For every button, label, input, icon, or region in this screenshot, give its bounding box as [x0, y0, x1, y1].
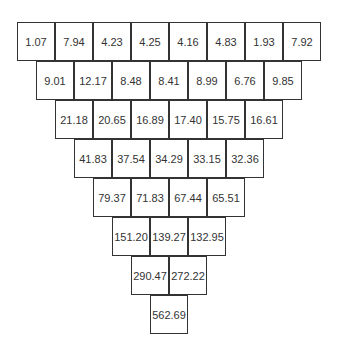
pyramid-cell: 1.93 [245, 22, 283, 61]
pyramid-cell: 71.83 [131, 178, 169, 217]
pyramid-cell: 34.29 [150, 139, 188, 178]
pyramid-cell: 1.07 [17, 22, 55, 61]
pyramid-cell: 4.23 [93, 22, 131, 61]
pyramid-cell: 16.61 [245, 100, 283, 139]
pyramid-cell: 15.75 [207, 100, 245, 139]
pyramid-cell: 32.36 [226, 139, 264, 178]
pyramid-cell: 290.47 [131, 256, 169, 295]
pyramid-cell: 79.37 [93, 178, 131, 217]
pyramid-cell: 151.20 [112, 217, 150, 256]
pyramid-cell: 4.16 [169, 22, 207, 61]
pyramid-cell: 9.01 [36, 61, 74, 100]
pyramid-cell: 7.94 [55, 22, 93, 61]
pyramid-cell: 21.18 [55, 100, 93, 139]
pyramid-cell: 8.48 [112, 61, 150, 100]
pyramid-cell: 139.27 [150, 217, 188, 256]
pyramid-cell: 272.22 [169, 256, 207, 295]
pyramid-cell: 12.17 [74, 61, 112, 100]
pyramid-cell: 20.65 [93, 100, 131, 139]
pyramid-cell: 4.25 [131, 22, 169, 61]
pyramid-cell: 41.83 [74, 139, 112, 178]
pyramid-cell: 9.85 [264, 61, 302, 100]
pyramid-cell: 4.83 [207, 22, 245, 61]
pyramid-cell: 37.54 [112, 139, 150, 178]
pyramid-cell: 6.76 [226, 61, 264, 100]
pyramid-cell: 67.44 [169, 178, 207, 217]
pyramid-cell: 33.15 [188, 139, 226, 178]
pyramid-cell: 7.92 [283, 22, 321, 61]
pyramid-cell: 132.95 [188, 217, 226, 256]
pyramid-cell: 65.51 [207, 178, 245, 217]
pyramid-cell: 8.99 [188, 61, 226, 100]
pyramid-cell: 562.69 [150, 295, 188, 334]
pyramid-cell: 8.41 [150, 61, 188, 100]
pyramid-cell: 16.89 [131, 100, 169, 139]
pyramid-cell: 17.40 [169, 100, 207, 139]
